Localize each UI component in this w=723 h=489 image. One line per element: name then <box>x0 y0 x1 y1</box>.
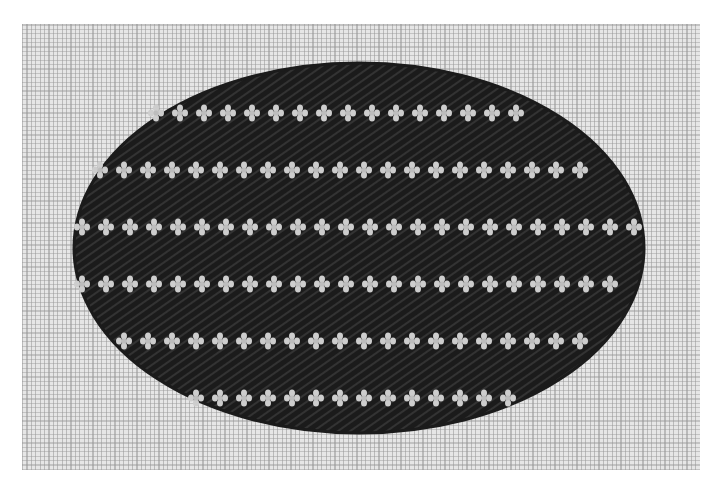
stitched-oval <box>0 0 723 489</box>
stitch-row-4 <box>74 275 618 292</box>
dark-oval <box>74 63 644 433</box>
